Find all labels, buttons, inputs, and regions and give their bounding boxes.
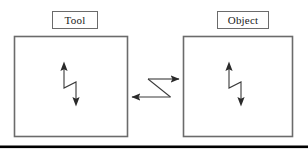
tool-label-text: Tool: [65, 15, 86, 26]
object-label-box: Object: [217, 11, 269, 29]
object-label-text: Object: [228, 15, 259, 26]
connector-diagonal: [148, 79, 171, 97]
tool-label-box: Tool: [52, 11, 98, 29]
figure-root: Tool Object: [0, 0, 308, 152]
tool-box: [15, 37, 128, 137]
object-box: [184, 37, 293, 137]
bottom-rule: [0, 146, 308, 149]
tool-object-connector: [132, 79, 179, 97]
